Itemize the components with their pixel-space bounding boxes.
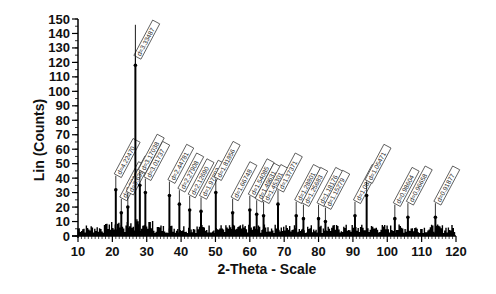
x-tick-label: 80 — [311, 244, 325, 259]
peak: d=3.33487 — [134, 20, 160, 236]
x-tick-label: 40 — [174, 244, 188, 259]
x-tick-label: 70 — [277, 244, 291, 259]
y-axis-title: Lin (Counts) — [31, 99, 47, 181]
y-tick-label: 0 — [63, 229, 70, 244]
y-tick-label: 20 — [56, 200, 70, 215]
y-tick-label: 140 — [48, 26, 70, 41]
y-tick-label: 120 — [48, 55, 70, 70]
peak-label: d=0.91877 — [434, 166, 460, 205]
y-tick-label: 30 — [56, 185, 70, 200]
x-tick-label: 30 — [139, 244, 153, 259]
x-tick-label: 50 — [208, 244, 222, 259]
y-tick-label: 90 — [56, 98, 70, 113]
y-tick-label: 10 — [56, 214, 70, 229]
peak: d=1.05471 — [365, 144, 391, 236]
y-tick-label: 130 — [48, 40, 70, 55]
y-tick-label: 60 — [56, 142, 70, 157]
y-tick-label: 50 — [56, 156, 70, 171]
x-tick-label: 90 — [346, 244, 360, 259]
y-tick-label: 150 — [48, 12, 70, 27]
x-tick-label: 100 — [376, 244, 398, 259]
peak: d=1.66748 — [231, 162, 257, 236]
x-tick-label: 60 — [243, 244, 257, 259]
x-axis-title: 2-Theta - Scale — [218, 261, 317, 277]
y-tick-label: 70 — [56, 127, 70, 142]
y-tick-label: 40 — [56, 171, 70, 186]
y-tick-label: 80 — [56, 113, 70, 128]
xrd-chart: Lin (Counts) 2-Theta - Scale 01020304050… — [0, 0, 496, 294]
peak-series: d=4.22470d=3.93083d=3.63931d=3.33487d=3.… — [114, 20, 460, 236]
svg-text:Lin (Counts): Lin (Counts) — [31, 99, 47, 181]
y-tick-label: 100 — [48, 84, 70, 99]
svg-text:d=1.05471: d=1.05471 — [366, 150, 387, 181]
x-axis: 102030405060708090100110120 — [71, 236, 467, 259]
y-tick-label: 110 — [49, 69, 70, 84]
x-tick-label: 110 — [411, 244, 432, 259]
peak-label: d=1.05471 — [365, 144, 391, 183]
svg-text:2-Theta - Scale: 2-Theta - Scale — [218, 261, 317, 277]
svg-text:d=3.33487: d=3.33487 — [135, 26, 156, 57]
svg-text:d=0.91877: d=0.91877 — [435, 172, 456, 203]
y-axis: 0102030405060708090100110120130140150 — [48, 12, 78, 244]
x-tick-label: 20 — [105, 244, 119, 259]
peak-label: d=3.33487 — [134, 20, 160, 59]
x-tick-label: 10 — [71, 244, 85, 259]
x-tick-label: 120 — [445, 244, 467, 259]
